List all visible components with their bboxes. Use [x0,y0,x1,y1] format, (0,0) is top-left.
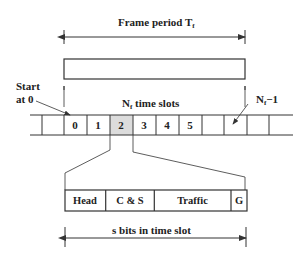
slot-number: 0 [64,120,86,131]
frame-period-text: Frame period T [118,16,192,28]
slots-label-n: N [122,97,130,109]
frame-period-label: Frame period Tf [118,17,195,30]
expand-right-line [133,135,245,190]
slots-label-suffix: time slots [132,97,179,109]
slot-number: 1 [87,120,109,131]
start-label-line1: Start [16,80,40,93]
slot-field-traffic: Traffic [154,196,231,207]
slot-number: 5 [179,120,201,131]
tdma-frame-diagram [0,0,306,262]
start-arrow [36,101,70,115]
slot-field-control-sync: C & S [106,196,154,207]
start-label-line2: at 0 [16,93,40,106]
time-slots-label: Nf time slots [122,98,179,111]
last-slot-arrow [233,104,248,124]
slot-number: 3 [133,120,155,131]
frame-period-dimension [64,30,245,44]
slot-number: 4 [156,120,178,131]
frame-box [64,59,245,79]
slot-field-head: Head [65,196,105,207]
last-slot-label-n: N [256,93,264,105]
last-slot-label: Nf−1 [256,94,278,107]
slot-number: 2 [110,120,132,131]
start-label: Start at 0 [16,80,40,106]
frame-period-subscript: f [192,22,194,30]
slot-field-guard: G [231,196,247,207]
slot-bits-label: s bits in time slot [112,225,191,236]
last-slot-label-suffix: −1 [266,93,278,105]
expand-left-line [65,135,110,190]
